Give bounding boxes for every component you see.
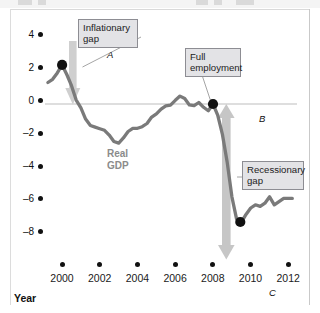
y-tick-label: –6 — [12, 194, 34, 204]
y-tick-dot — [38, 32, 43, 37]
x-tick-label: 2008 — [195, 273, 231, 284]
output-gap-figure: Output gap (percent of potential GDP) Ye… — [0, 0, 320, 313]
x-tick-label: 2012 — [270, 273, 306, 284]
chart-canvas — [47, 22, 295, 272]
x-tick-dot — [135, 262, 140, 267]
real-gdp-line — [48, 65, 292, 223]
top-strip-mark — [18, 0, 32, 5]
y-tick-dot — [38, 164, 43, 169]
marker-point-c — [235, 217, 245, 227]
page-top-strip — [0, 0, 320, 8]
x-tick-label: 2010 — [233, 273, 269, 284]
y-tick-label: 2 — [12, 63, 34, 73]
marker-point-a — [57, 60, 67, 70]
y-tick-dot — [38, 98, 43, 103]
top-strip-mark — [38, 0, 46, 5]
x-tick-label: 2002 — [82, 273, 118, 284]
y-tick-label: –2 — [12, 128, 34, 138]
figure-frame-right — [309, 9, 310, 305]
x-tick-label: 2004 — [119, 273, 155, 284]
y-tick-label: –8 — [12, 227, 34, 237]
plot-area: Real GDP A B C 4 2 0 –2 –4 –6 –8 2000 20… — [47, 22, 295, 272]
inflationary-gap-callout: Inflationary gap — [78, 19, 138, 48]
y-tick-label: 4 — [12, 30, 34, 40]
figure-frame-top — [10, 9, 310, 10]
x-tick-dot — [60, 262, 65, 267]
y-tick-dot — [38, 131, 43, 136]
y-tick-dot — [38, 229, 43, 234]
figure-frame-left — [10, 9, 11, 305]
x-axis-title: Year — [14, 292, 36, 304]
x-tick-label: 2000 — [44, 273, 80, 284]
x-tick-dot — [173, 262, 178, 267]
y-tick-label: –4 — [12, 161, 34, 171]
point-c-label: C — [269, 287, 276, 298]
top-strip-mark — [236, 0, 254, 5]
full-employment-callout: Full employment — [185, 48, 241, 77]
real-gdp-series-label: Real GDP — [107, 148, 129, 171]
top-strip-mark — [214, 0, 222, 5]
y-tick-dot — [38, 196, 43, 201]
x-tick-label: 2006 — [157, 273, 193, 284]
x-tick-dot — [286, 262, 291, 267]
y-tick-dot — [38, 65, 43, 70]
recessionary-gap-callout: Recessionary gap — [242, 161, 304, 190]
marker-point-b — [208, 99, 218, 109]
y-tick-label: 0 — [12, 96, 34, 106]
point-a-label: A — [107, 49, 113, 60]
top-strip-mark — [196, 0, 208, 5]
point-b-label: B — [259, 113, 265, 124]
